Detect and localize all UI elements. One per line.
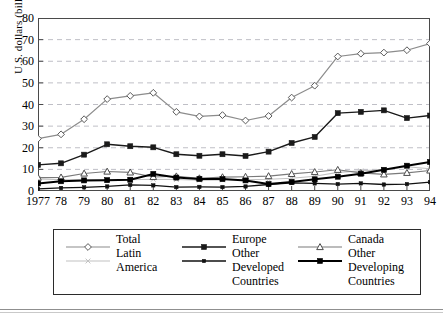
chart-legend: TotalLatinAmericaEuropeOtherDevelopedCou… — [53, 229, 421, 295]
x-tick-label: 79 — [73, 194, 95, 209]
legend-label: Total — [116, 233, 141, 246]
y-tick-label: 10 — [4, 162, 34, 177]
x-tick-label: 83 — [165, 194, 187, 209]
x-tick-label: 80 — [96, 194, 118, 209]
x-tick-label: 92 — [373, 194, 395, 209]
x-tick-label: 90 — [327, 194, 349, 209]
x-tick-label: 93 — [396, 194, 418, 209]
chart-figure: U.S. dollars (billions) 0102030405060708… — [0, 0, 443, 313]
legend-label-continuation-row: America — [66, 262, 188, 275]
x-tick-label: 87 — [258, 194, 280, 209]
x-tick-label: 91 — [350, 194, 372, 209]
legend-column: EuropeOtherDevelopedCountries — [182, 234, 304, 290]
legend-column: TotalLatinAmerica — [66, 234, 188, 276]
x-tick-label: 89 — [304, 194, 326, 209]
legend-label-continuation-row: Countries — [182, 276, 304, 289]
legend-marker-icon — [298, 252, 342, 260]
x-tick-label: 84 — [188, 194, 210, 209]
legend-marker-icon — [66, 252, 110, 260]
x-tick-label: 94 — [419, 194, 441, 209]
y-tick-label: 60 — [4, 54, 34, 69]
x-tick-label: 86 — [235, 194, 257, 209]
y-tick-label: 30 — [4, 119, 34, 134]
chart-plot-area: U.S. dollars (billions) — [38, 18, 430, 191]
legend-column: CanadaOtherDevelopingCountries — [298, 234, 420, 290]
legend-label: Latin — [116, 247, 141, 260]
legend-label-continuation: Countries — [232, 275, 279, 288]
x-tick-label: 88 — [281, 194, 303, 209]
legend-label: Other — [348, 247, 375, 260]
legend-label-continuation: Developed — [232, 261, 284, 274]
legend-label-continuation-row: Countries — [298, 276, 420, 289]
y-tick-label: 20 — [4, 141, 34, 156]
legend-marker-icon — [182, 252, 226, 260]
x-tick-label: 85 — [211, 194, 233, 209]
legend-marker-icon — [66, 238, 110, 246]
legend-marker-icon — [298, 238, 342, 246]
legend-label-continuation: Developing — [348, 261, 404, 274]
x-tick-label: 78 — [50, 194, 72, 209]
y-tick-label: 80 — [4, 11, 34, 26]
footer-rule — [0, 309, 443, 310]
legend-marker-icon — [182, 238, 226, 246]
x-tick-label: 82 — [142, 194, 164, 209]
y-tick-label: 40 — [4, 98, 34, 113]
legend-label-continuation: Countries — [348, 275, 395, 288]
legend-label: Other — [232, 247, 259, 260]
x-tick-label: 81 — [119, 194, 141, 209]
legend-label-continuation: America — [116, 261, 157, 274]
legend-label: Europe — [232, 233, 267, 246]
legend-label: Canada — [348, 233, 384, 246]
plot-canvas — [38, 18, 430, 191]
y-tick-label: 50 — [4, 76, 34, 91]
y-tick-label: 70 — [4, 33, 34, 48]
